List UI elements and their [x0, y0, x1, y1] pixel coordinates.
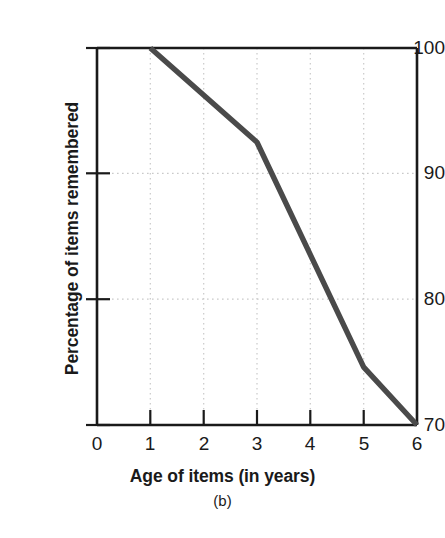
x-axis-title: Age of items (in years) — [0, 466, 445, 487]
x-tick-label-2: 2 — [184, 434, 224, 453]
figure-panel-b: Percentage of items remembered 100 90 80… — [0, 0, 445, 538]
x-tick-label-1: 1 — [130, 434, 170, 453]
x-axis-ticks — [150, 410, 363, 425]
x-tick-label-4: 4 — [290, 434, 330, 453]
x-tick-label-6: 6 — [397, 434, 437, 453]
x-tick-label-3: 3 — [237, 434, 277, 453]
x-tick-label-0: 0 — [77, 434, 117, 453]
vertical-gridlines — [150, 48, 363, 425]
x-tick-label-5: 5 — [344, 434, 384, 453]
horizontal-gridlines — [97, 173, 417, 299]
figure-caption: (b) — [0, 492, 445, 509]
data-line-series — [150, 48, 417, 425]
plot-area — [0, 0, 445, 538]
